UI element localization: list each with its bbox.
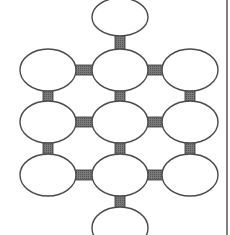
node-r3-mid — [92, 154, 148, 196]
node-r2-right — [162, 101, 218, 143]
grid-graph-diagram — [0, 0, 230, 235]
node-r2-left — [20, 101, 76, 143]
node-r3-left — [20, 154, 76, 196]
node-r1-mid — [92, 49, 148, 91]
node-r2-mid — [92, 101, 148, 143]
node-r1-right — [162, 49, 218, 91]
node-top — [92, 0, 148, 36]
node-r1-left — [20, 49, 76, 91]
node-bottom — [92, 207, 148, 235]
node-r3-right — [162, 154, 218, 196]
